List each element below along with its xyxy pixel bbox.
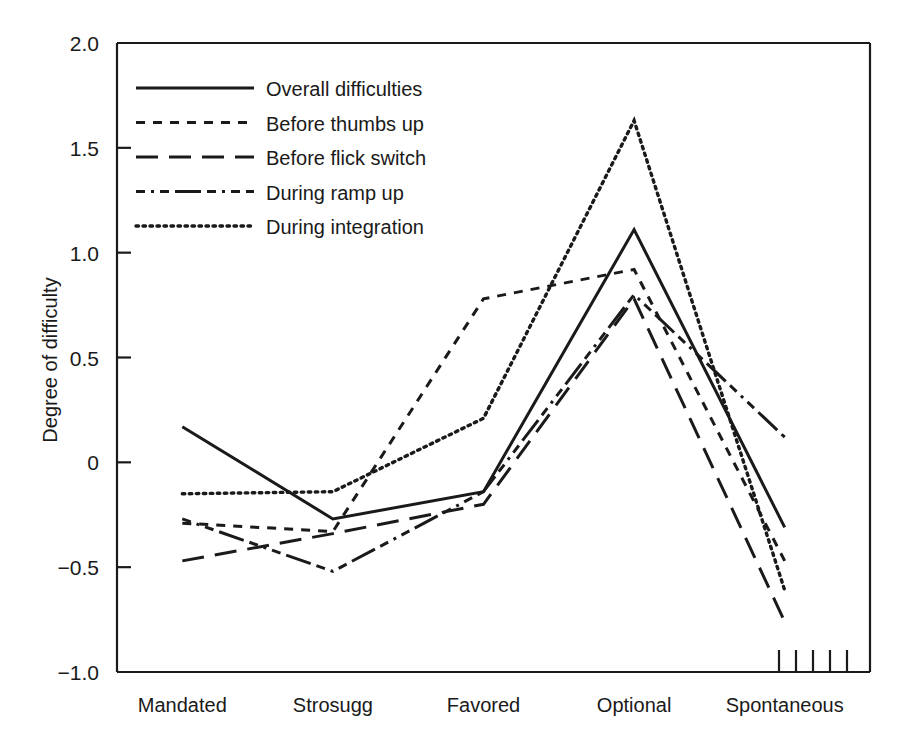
chart-figure: 2.01.51.00.50−0.5−1.0 MandatedStrosuggFa… <box>0 0 910 751</box>
x-category-label: Strosugg <box>293 694 373 716</box>
y-tick-label: 0 <box>87 451 99 474</box>
y-tick-label: 0.5 <box>70 347 99 370</box>
chart-legend: Overall difficultiesBefore thumbs upBefo… <box>136 78 426 238</box>
series-line-0 <box>182 230 784 528</box>
y-tick-label: 1.5 <box>70 137 99 160</box>
x-category-label: Spontaneous <box>726 694 844 716</box>
y-axis: 2.01.51.00.50−0.5−1.0 <box>58 32 131 684</box>
y-tick-label: 2.0 <box>70 32 99 55</box>
y-tick-label: 1.0 <box>70 242 99 265</box>
y-axis-title: Degree of difficulty <box>39 277 61 442</box>
minor-ticks-bottom-right <box>779 650 847 672</box>
x-category-label: Favored <box>447 694 520 716</box>
plot-frame <box>117 43 870 672</box>
series-line-3 <box>182 295 784 572</box>
legend-label-2: Before flick switch <box>266 147 426 169</box>
y-tick-label: −0.5 <box>58 556 99 579</box>
y-tick-label: −1.0 <box>58 661 99 684</box>
legend-label-4: During integration <box>266 216 424 238</box>
x-category-label: Mandated <box>138 694 227 716</box>
legend-label-3: During ramp up <box>266 182 404 204</box>
x-axis: MandatedStrosuggFavoredOptionalSpontaneo… <box>138 694 844 716</box>
x-category-label: Optional <box>597 694 672 716</box>
legend-label-1: Before thumbs up <box>266 113 424 135</box>
legend-label-0: Overall difficulties <box>266 78 422 100</box>
line-chart-canvas: 2.01.51.00.50−0.5−1.0 MandatedStrosuggFa… <box>0 0 910 751</box>
